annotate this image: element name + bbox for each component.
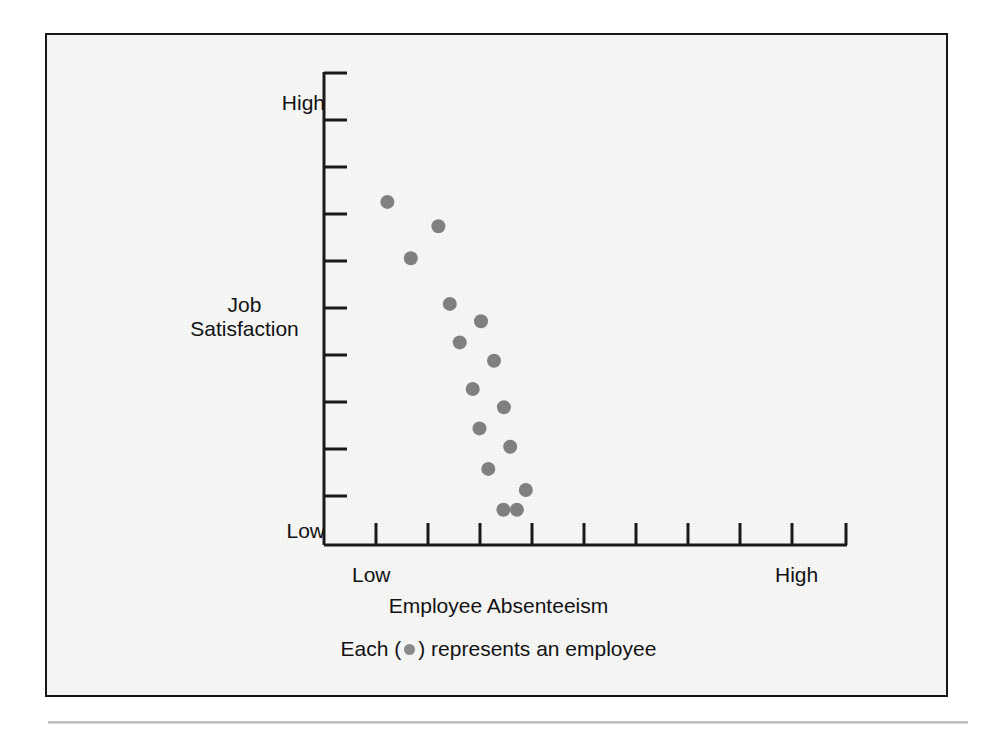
legend-caption: Each () represents an employee <box>47 637 950 661</box>
data-point <box>487 354 501 368</box>
data-point <box>481 462 495 476</box>
data-point <box>443 297 457 311</box>
data-point <box>466 382 480 396</box>
bottom-divider-rule <box>48 721 968 724</box>
data-point <box>474 314 488 328</box>
y-axis-title: Job Satisfaction <box>157 293 332 341</box>
x-axis-high-label: High <box>775 562 818 587</box>
y-axis-high-label: High <box>282 90 325 115</box>
y-axis-low-label: Low <box>286 518 325 543</box>
data-point-group <box>380 195 532 517</box>
x-axis-title: Employee Absenteeism <box>47 594 950 618</box>
x-axis-ticks <box>376 523 846 545</box>
data-point <box>473 421 487 435</box>
x-axis-low-label: Low <box>352 562 391 587</box>
y-axis-title-line2: Satisfaction <box>157 317 332 341</box>
data-point <box>503 440 517 454</box>
data-point <box>404 251 418 265</box>
data-point <box>496 503 510 517</box>
data-point <box>431 219 445 233</box>
data-point <box>497 400 511 414</box>
legend-text-after: ) represents an employee <box>418 637 656 660</box>
legend-dot-icon <box>404 644 415 655</box>
data-point <box>453 335 467 349</box>
y-axis-title-line1: Job <box>157 293 332 317</box>
y-axis-ticks <box>324 73 347 496</box>
data-point <box>519 483 533 497</box>
scatter-plot: High Low Job Satisfaction Low High Emplo… <box>47 35 950 699</box>
figure-frame: High Low Job Satisfaction Low High Emplo… <box>45 33 948 697</box>
data-point <box>510 503 524 517</box>
data-point <box>380 195 394 209</box>
legend-text-before: Each ( <box>341 637 402 660</box>
